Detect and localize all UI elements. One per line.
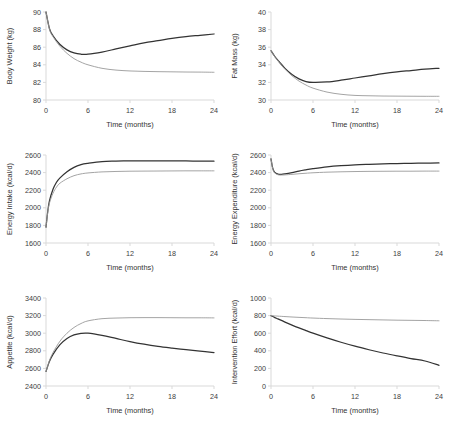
x-tick-label: 24 (435, 249, 443, 258)
x-tick-label: 6 (86, 106, 90, 115)
y-tick-label: 2600 (250, 151, 266, 160)
x-tick-label: 12 (126, 106, 134, 115)
y-tick-label: 30 (258, 96, 266, 105)
series-line-light (46, 171, 214, 227)
x-tick-label: 6 (86, 249, 90, 258)
x-tick-label: 24 (210, 392, 218, 401)
x-tick-label: 0 (269, 106, 273, 115)
x-tick-label: 24 (210, 249, 218, 258)
y-tick-label: 0 (262, 382, 266, 391)
series-line-light (46, 12, 214, 72)
chart-panel-3: 16001800200022002400260006121824Time (mo… (0, 143, 225, 286)
y-tick-label: 86 (33, 43, 41, 52)
y-tick-label: 1000 (250, 294, 266, 303)
x-tick-label: 12 (126, 392, 134, 401)
x-tick-label: 6 (311, 106, 315, 115)
x-tick-label: 18 (168, 106, 176, 115)
y-tick-label: 84 (33, 60, 41, 69)
y-axis-title: Energy Intake (kcal/d) (5, 163, 14, 235)
y-tick-label: 2400 (250, 168, 266, 177)
y-tick-label: 2600 (25, 151, 41, 160)
x-tick-label: 18 (168, 249, 176, 258)
chart-svg: 0200400600800100006121824Time (months)In… (225, 286, 450, 429)
chart-panel-4: 16001800200022002400260006121824Time (mo… (225, 143, 450, 286)
x-tick-label: 6 (311, 249, 315, 258)
y-tick-label: 2200 (25, 186, 41, 195)
chart-panel-1: 80828486889006121824Time (months)Body We… (0, 0, 225, 143)
y-axis-title: Intervention Effort (kcal/d) (230, 300, 239, 384)
x-tick-label: 12 (351, 106, 359, 115)
x-tick-label: 18 (393, 106, 401, 115)
chart-svg: 16001800200022002400260006121824Time (mo… (225, 143, 450, 286)
y-tick-label: 1600 (250, 239, 266, 248)
chart-svg: 16001800200022002400260006121824Time (mo… (0, 143, 225, 286)
y-tick-label: 34 (258, 60, 266, 69)
y-tick-label: 88 (33, 25, 41, 34)
chart-svg: 80828486889006121824Time (months)Body We… (0, 0, 225, 143)
multi-panel-figure: 80828486889006121824Time (months)Body We… (0, 0, 450, 429)
y-tick-label: 600 (254, 329, 266, 338)
x-tick-label: 24 (210, 106, 218, 115)
x-tick-label: 0 (269, 392, 273, 401)
y-tick-label: 2400 (25, 168, 41, 177)
x-axis-title: Time (months) (331, 406, 378, 415)
chart-panel-5: 24002600280030003200340006121824Time (mo… (0, 286, 225, 429)
y-tick-label: 2000 (250, 203, 266, 212)
x-axis-title: Time (months) (106, 263, 153, 272)
x-tick-label: 6 (311, 392, 315, 401)
series-line-light (271, 316, 439, 321)
series-line-light (271, 51, 439, 97)
y-tick-label: 32 (258, 78, 266, 87)
x-axis-title: Time (months) (106, 406, 153, 415)
y-tick-label: 3200 (25, 311, 41, 320)
y-tick-label: 40 (258, 8, 266, 17)
y-axis-title: Appetite (kcal/d) (5, 315, 14, 368)
y-tick-label: 2400 (25, 382, 41, 391)
y-tick-label: 3400 (25, 294, 41, 303)
y-tick-label: 1600 (25, 239, 41, 248)
x-axis-title: Time (months) (331, 263, 378, 272)
series-line-dark (46, 333, 214, 371)
y-tick-label: 82 (33, 78, 41, 87)
x-axis-title: Time (months) (331, 120, 378, 129)
chart-panel-6: 0200400600800100006121824Time (months)In… (225, 286, 450, 429)
y-tick-label: 1800 (250, 221, 266, 230)
y-axis-title: Energy Expenditure (kcal/d) (230, 153, 239, 244)
y-tick-label: 2800 (25, 346, 41, 355)
x-tick-label: 12 (126, 249, 134, 258)
y-tick-label: 3000 (25, 329, 41, 338)
y-tick-label: 2000 (25, 203, 41, 212)
y-axis-title: Body Weight (kg) (5, 28, 14, 85)
x-tick-label: 6 (86, 392, 90, 401)
chart-svg: 30323436384006121824Time (months)Fat Mas… (225, 0, 450, 143)
y-tick-label: 90 (33, 8, 41, 17)
chart-panel-2: 30323436384006121824Time (months)Fat Mas… (225, 0, 450, 143)
x-tick-label: 18 (393, 392, 401, 401)
series-line-dark (271, 51, 439, 83)
y-tick-label: 2600 (25, 364, 41, 373)
y-tick-label: 1800 (25, 221, 41, 230)
series-line-dark (46, 12, 214, 54)
y-tick-label: 800 (254, 311, 266, 320)
y-tick-label: 38 (258, 25, 266, 34)
y-tick-label: 200 (254, 364, 266, 373)
series-line-dark (271, 316, 439, 366)
x-tick-label: 24 (435, 106, 443, 115)
series-line-dark (271, 159, 439, 174)
chart-svg: 24002600280030003200340006121824Time (mo… (0, 286, 225, 429)
series-line-light (271, 159, 439, 175)
x-tick-label: 18 (393, 249, 401, 258)
x-tick-label: 18 (168, 392, 176, 401)
x-tick-label: 0 (269, 249, 273, 258)
x-tick-label: 0 (44, 392, 48, 401)
x-tick-label: 12 (351, 392, 359, 401)
x-tick-label: 24 (435, 392, 443, 401)
x-tick-label: 12 (351, 249, 359, 258)
x-axis-title: Time (months) (106, 120, 153, 129)
y-axis-title: Fat Mass (kg) (230, 33, 239, 78)
y-tick-label: 36 (258, 43, 266, 52)
x-tick-label: 0 (44, 106, 48, 115)
y-tick-label: 2200 (250, 186, 266, 195)
y-tick-label: 400 (254, 346, 266, 355)
y-tick-label: 80 (33, 96, 41, 105)
